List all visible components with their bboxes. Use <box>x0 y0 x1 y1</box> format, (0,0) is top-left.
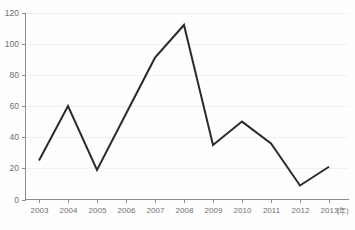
x-tick-label: 2008 <box>176 206 194 215</box>
y-tick-label: 0 <box>14 195 19 205</box>
x-axis-unit-label: (年) <box>337 206 349 215</box>
x-tick-marks-group <box>40 200 330 204</box>
y-tick-label: 100 <box>5 39 19 49</box>
x-tick-label: 2004 <box>60 206 78 215</box>
x-tick-label: 2011 <box>263 206 281 215</box>
y-tick-label: 80 <box>10 70 20 80</box>
x-tick-label: 2007 <box>147 206 165 215</box>
x-tick-labels-group: 2003200420052006200720082009201020112012… <box>31 206 339 215</box>
y-tick-marks-group <box>22 14 26 201</box>
x-tick-label: 2012 <box>292 206 310 215</box>
data-series-line <box>39 25 329 186</box>
y-tick-label: 20 <box>10 163 20 173</box>
y-tick-label: 120 <box>5 8 19 18</box>
x-tick-label: 2005 <box>89 206 107 215</box>
line-chart-svg: 020406080100120 200320042005200620072008… <box>0 0 355 230</box>
x-tick-label: 2003 <box>31 206 49 215</box>
x-tick-label: 2006 <box>118 206 136 215</box>
x-tick-label: 2010 <box>234 206 252 215</box>
y-tick-label: 40 <box>10 132 20 142</box>
y-tick-label: 60 <box>10 101 20 111</box>
line-chart-container: 020406080100120 200320042005200620072008… <box>0 0 355 230</box>
y-tick-labels-group: 020406080100120 <box>5 8 19 205</box>
x-tick-label: 2009 <box>205 206 223 215</box>
